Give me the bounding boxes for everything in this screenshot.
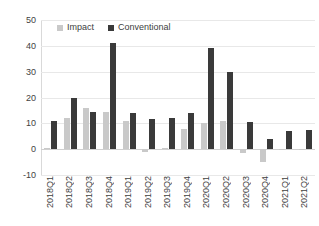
x-tick-label: 2019Q2 [144, 176, 153, 208]
bar-group [237, 20, 257, 175]
bar-impact-2020Q4 [260, 149, 266, 162]
bar-impact-2019Q3 [162, 148, 168, 149]
bar-impact-2021Q1 [279, 149, 285, 150]
x-tick-label: 2020Q1 [202, 176, 211, 208]
x-tick-label: 2020Q4 [261, 176, 270, 208]
bar-conventional-2019Q3 [169, 118, 175, 149]
bar-impact-2018Q2 [64, 118, 70, 149]
plot-area [41, 20, 315, 175]
bar-impact-2020Q3 [240, 149, 246, 153]
legend-label-impact: Impact [67, 23, 94, 32]
y-tick-label: 20 [26, 93, 36, 102]
x-tick-label: 2018Q3 [85, 176, 94, 208]
legend-swatch-conventional [108, 25, 114, 31]
bar-group [256, 20, 276, 175]
bar-impact-2020Q1 [201, 123, 207, 149]
bar-impact-2018Q4 [103, 112, 109, 149]
bar-impact-2020Q2 [220, 121, 226, 149]
bar-conventional-2019Q2 [149, 119, 155, 149]
legend-label-conventional: Conventional [118, 23, 171, 32]
legend-item-impact: Impact [57, 23, 94, 32]
x-tick-label: 2018Q2 [65, 176, 74, 208]
bar-group [295, 20, 315, 175]
bar-conventional-2019Q1 [130, 113, 136, 149]
bar-impact-2019Q4 [181, 129, 187, 150]
bar-group [139, 20, 159, 175]
y-tick-label: 50 [26, 16, 36, 25]
bar-conventional-2020Q4 [267, 139, 273, 149]
x-tick-label: 2019Q1 [124, 176, 133, 208]
x-tick-label: 2019Q4 [183, 176, 192, 208]
bar-group [119, 20, 139, 175]
bar-impact-2019Q1 [123, 121, 129, 149]
y-tick-label: 0 [31, 145, 36, 154]
y-tick-label: 30 [26, 67, 36, 76]
bar-chart: Impact Conventional -1001020304050 2018Q… [0, 0, 319, 226]
x-tick-label: 2018Q4 [105, 176, 114, 208]
y-tick-label: -10 [23, 171, 36, 180]
bar-conventional-2018Q4 [110, 43, 116, 149]
bar-group [61, 20, 81, 175]
y-axis-labels: -1001020304050 [0, 20, 36, 175]
x-tick-label: 2018Q1 [46, 176, 55, 208]
bars-layer [41, 20, 315, 175]
x-axis-labels: 2018Q12018Q22018Q32018Q42019Q12019Q22019… [41, 176, 315, 226]
bar-group [217, 20, 237, 175]
bar-conventional-2021Q2 [306, 130, 312, 149]
x-tick-label: 2020Q3 [242, 176, 251, 208]
bar-group [80, 20, 100, 175]
bar-conventional-2020Q2 [227, 72, 233, 150]
y-tick-label: 10 [26, 119, 36, 128]
bar-impact-2019Q2 [142, 149, 148, 152]
bar-impact-2021Q2 [299, 149, 305, 150]
bar-conventional-2018Q3 [90, 112, 96, 149]
bar-group [158, 20, 178, 175]
bar-conventional-2020Q3 [247, 122, 253, 149]
bar-group [198, 20, 218, 175]
bar-impact-2018Q3 [83, 108, 89, 149]
bar-group [276, 20, 296, 175]
bar-conventional-2021Q1 [286, 131, 292, 149]
x-tick-label: 2020Q2 [222, 176, 231, 208]
x-tick-label: 2021Q1 [281, 176, 290, 208]
legend-swatch-impact [57, 25, 63, 31]
bar-group [178, 20, 198, 175]
x-tick-label: 2019Q3 [163, 176, 172, 208]
bar-impact-2018Q1 [44, 148, 50, 149]
bar-group [41, 20, 61, 175]
bar-conventional-2018Q1 [51, 121, 57, 149]
bar-conventional-2019Q4 [188, 113, 194, 149]
legend-item-conventional: Conventional [108, 23, 171, 32]
y-tick-label: 40 [26, 41, 36, 50]
bar-conventional-2020Q1 [208, 48, 214, 149]
chart-legend: Impact Conventional [57, 23, 171, 32]
x-tick-label: 2021Q2 [300, 176, 309, 208]
bar-group [100, 20, 120, 175]
bar-conventional-2018Q2 [71, 98, 77, 150]
